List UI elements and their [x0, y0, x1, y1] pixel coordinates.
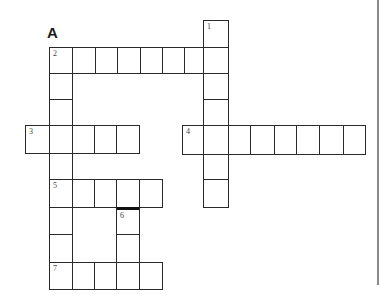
crossword-cell[interactable]: [72, 262, 95, 290]
crossword-cell[interactable]: [72, 125, 95, 154]
clue-number: 7: [53, 265, 57, 273]
clue-number: 2: [53, 50, 57, 58]
crossword-cell[interactable]: [72, 47, 96, 74]
crossword-cell[interactable]: [94, 262, 117, 290]
page-edge-rule: [377, 0, 379, 285]
crossword-cell[interactable]: [49, 73, 73, 100]
crossword-cell[interactable]: [49, 99, 73, 126]
clue-number: 4: [186, 128, 190, 136]
crossword-cell-2[interactable]: 2: [49, 47, 73, 74]
crossword-cell[interactable]: [203, 125, 229, 155]
crossword-cell[interactable]: [203, 47, 229, 74]
crossword-cell[interactable]: [116, 234, 140, 263]
crossword-cell[interactable]: [49, 153, 73, 180]
crossword-cell[interactable]: [116, 125, 140, 154]
crossword-cell[interactable]: [117, 47, 141, 74]
crossword-cell-1[interactable]: 1: [203, 20, 229, 48]
crossword-cell-4[interactable]: 4: [182, 125, 204, 155]
crossword-cell[interactable]: [95, 47, 118, 74]
crossword-cell[interactable]: [203, 73, 229, 100]
crossword-cell[interactable]: [49, 207, 73, 235]
crossword-cell[interactable]: [116, 262, 140, 290]
crossword-cell[interactable]: [49, 125, 73, 154]
crossword-cell[interactable]: [343, 125, 366, 155]
crossword-cell[interactable]: [228, 125, 251, 155]
clue-number: 3: [29, 128, 33, 136]
puzzle-label: A: [47, 25, 58, 40]
crossword-cell[interactable]: [184, 47, 204, 74]
crossword-cell-6[interactable]: 6: [116, 207, 140, 235]
crossword-cell[interactable]: [203, 99, 229, 126]
crossword-cell[interactable]: [250, 125, 275, 155]
crossword-cell-7[interactable]: 7: [49, 262, 73, 290]
clue-number: 1: [207, 23, 211, 31]
clue-number: 6: [120, 212, 124, 220]
crossword-cell[interactable]: [274, 125, 297, 155]
crossword-cell[interactable]: [49, 234, 73, 263]
crossword-cell[interactable]: [203, 154, 229, 180]
crossword-cell[interactable]: [203, 179, 229, 208]
crossword-cell[interactable]: [139, 179, 163, 208]
crossword-cell[interactable]: [319, 125, 344, 155]
crossword-cell[interactable]: [162, 47, 185, 74]
crossword-cell-3[interactable]: 3: [25, 125, 50, 154]
crossword-cell[interactable]: [296, 125, 320, 155]
crossword-cell[interactable]: [139, 262, 163, 290]
crossword-cell-5[interactable]: 5: [49, 179, 73, 208]
crossword-cell[interactable]: [94, 179, 117, 208]
crossword-cell[interactable]: [140, 47, 163, 74]
crossword-cell[interactable]: [94, 125, 117, 154]
crossword-cell[interactable]: [116, 179, 140, 208]
crossword-cell[interactable]: [72, 179, 95, 208]
clue-number: 5: [53, 182, 57, 190]
